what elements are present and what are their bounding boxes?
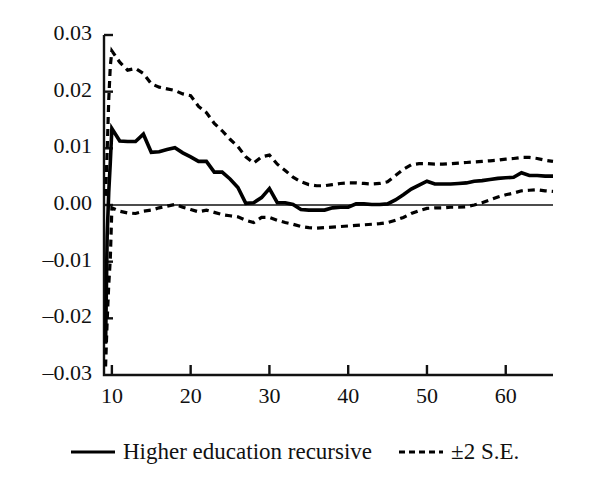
x-axis-tick-label-2: 30 — [239, 383, 299, 409]
legend-label-higher-education-recursive: Higher education recursive — [123, 439, 372, 465]
legend-label-two-standard-errors: ±2 S.E. — [451, 439, 519, 465]
y-axis-tick-label-3: 0.00 — [54, 190, 93, 216]
x-axis-tick-label-5: 60 — [476, 383, 536, 409]
chart-series-lines — [106, 51, 553, 367]
series-line-1 — [106, 51, 553, 196]
legend-entry-series: Higher education recursive — [70, 439, 372, 465]
series-line-2 — [106, 190, 553, 367]
x-axis-tick-label-3: 40 — [318, 383, 378, 409]
legend-dashed-line-icon — [398, 445, 444, 459]
chart-plot-area — [0, 0, 607, 488]
legend-solid-line-icon — [70, 445, 116, 459]
chart-figure: 0.030.020.010.00–0.01–0.02–0.03 10203040… — [0, 0, 607, 488]
chart-legend: Higher education recursive ±2 S.E. — [70, 432, 570, 472]
y-axis-tick-label-0: 0.03 — [54, 20, 93, 46]
y-axis-tick-label-5: –0.02 — [43, 303, 93, 329]
y-axis-tick-label-2: 0.01 — [54, 133, 93, 159]
y-axis-tick-label-1: 0.02 — [54, 77, 93, 103]
x-axis-tick-label-1: 20 — [161, 383, 221, 409]
legend-swatch-dashed-icon — [398, 445, 444, 459]
legend-swatch-solid-icon — [70, 445, 116, 459]
y-axis-tick-label-4: –0.01 — [43, 247, 93, 273]
x-axis-tick-label-4: 50 — [397, 383, 457, 409]
x-axis-tick-label-0: 10 — [82, 383, 142, 409]
legend-entry-se-band: ±2 S.E. — [398, 439, 519, 465]
series-line-0 — [106, 129, 553, 344]
